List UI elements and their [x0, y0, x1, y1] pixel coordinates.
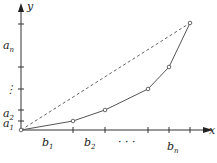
x-label-ellipsis: · · · [118, 136, 135, 149]
x-axis-label: x [209, 124, 216, 137]
x-label-b2: b2 [84, 136, 96, 151]
lorenz-curve-diagram: y x an ⋮ a2 a1 b1 b2 · · · bn [0, 0, 217, 163]
y-label-an: an [3, 39, 15, 54]
x-label-bn: bn [167, 140, 179, 155]
x-label-b1: b1 [42, 136, 54, 151]
equality-dashed-line [21, 23, 190, 130]
y-label-ellipsis: ⋮ [5, 83, 16, 96]
y-axis-arrow-icon [18, 3, 24, 12]
y-axis-label: y [26, 0, 34, 13]
